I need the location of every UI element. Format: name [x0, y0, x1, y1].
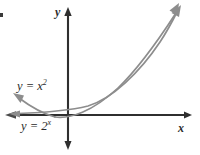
y-axis-bottom-arrow-icon — [65, 141, 72, 150]
exponential-equation-label: y = 2x — [21, 120, 51, 133]
parabola-left-arrow-icon — [13, 93, 24, 103]
parabola-equation-text: y = x — [17, 79, 43, 93]
x-axis-label: x — [178, 122, 184, 134]
y-axis-top-arrow-icon — [64, 7, 71, 16]
parabola-equation-exponent: 2 — [43, 78, 47, 87]
exponential-path — [18, 12, 177, 114]
curve-parabola — [13, 5, 181, 117]
parabola-right-branch — [55, 13, 176, 117]
exponential-equation-text: y = 2 — [21, 119, 47, 133]
math-figure-two-curves: y x y = x2 y = 2x — [0, 0, 200, 155]
y-axis-label: y — [55, 6, 60, 18]
exponential-equation-exponent: x — [47, 118, 51, 127]
x-axis-right-arrow-icon — [184, 111, 192, 118]
parabola-equation-label: y = x2 — [17, 80, 47, 93]
curve-exponential — [9, 3, 179, 117]
